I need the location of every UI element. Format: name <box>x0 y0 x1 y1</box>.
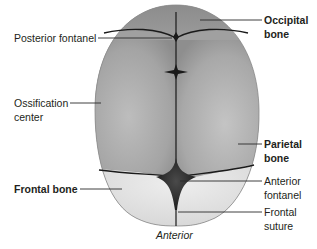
label-text: bone <box>264 27 308 41</box>
label-text: Occipital <box>264 13 308 27</box>
label-text: Frontal bone <box>14 182 78 196</box>
label-ossification-center: Ossification center <box>14 96 68 124</box>
label-text: Posterior fontanel <box>14 31 96 45</box>
label-text: Parietal <box>264 137 302 151</box>
label-posterior-fontanel: Posterior fontanel <box>14 31 96 45</box>
label-frontal-bone: Frontal bone <box>14 182 78 196</box>
label-text: suture <box>264 219 297 233</box>
label-frontal-suture: Frontal suture <box>264 205 297 233</box>
label-text: Frontal <box>264 205 297 219</box>
label-text: Anterior <box>264 174 301 188</box>
label-parietal-bone: Parietal bone <box>264 137 302 165</box>
label-occipital-bone: Occipital bone <box>264 13 308 41</box>
orientation-caption: Anterior <box>156 229 193 241</box>
label-text: fontanel <box>264 188 301 202</box>
label-anterior-fontanel: Anterior fontanel <box>264 174 301 202</box>
label-text: bone <box>264 151 302 165</box>
label-text: Ossification <box>14 96 68 110</box>
label-text: center <box>14 110 68 124</box>
